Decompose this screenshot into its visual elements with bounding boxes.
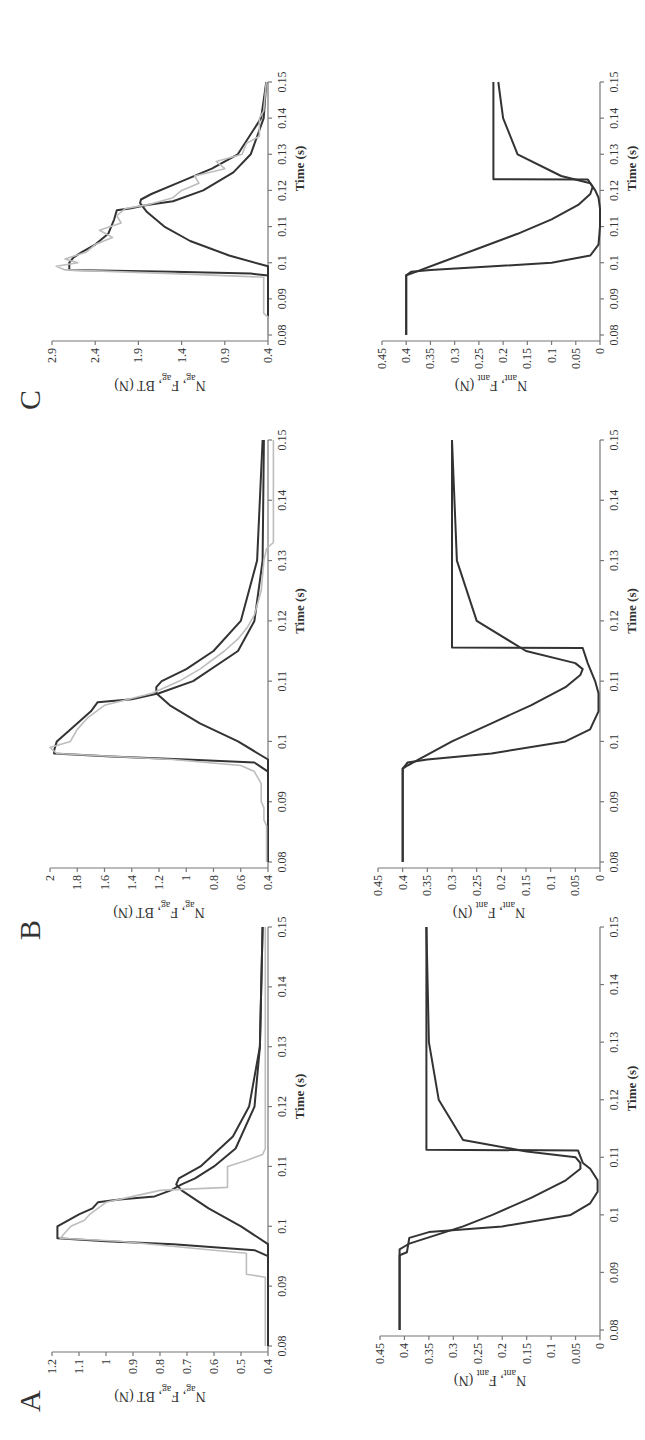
y-tick-label: 0.4 <box>261 875 275 890</box>
y-tick-label: 0.25 <box>470 875 484 896</box>
x-tick-label: 0.15 <box>275 917 289 938</box>
x-tick-label: 0.14 <box>607 108 621 129</box>
y-tick-label: 0.1 <box>544 875 558 890</box>
y-axis-title: Nag, Fag, BT (N) <box>113 901 205 921</box>
y-tick-label: 0.8 <box>207 875 221 890</box>
y-tick-label: 0.3 <box>446 1343 460 1358</box>
x-tick-label: 0.13 <box>275 144 289 165</box>
y-tick-label: 0.3 <box>445 875 459 890</box>
y-tick-label: 0.05 <box>569 348 583 369</box>
y-tick-label: 0.35 <box>422 1343 436 1364</box>
model-curve <box>69 82 268 335</box>
y-tick-label: 0.6 <box>207 1359 221 1374</box>
y-tick-label: 0.2 <box>494 875 508 890</box>
x-tick-label: 0.15 <box>275 430 289 451</box>
x-tick-label: 0.14 <box>607 974 621 995</box>
x-tick-label: 0.15 <box>607 430 621 451</box>
model-curve <box>406 82 593 335</box>
y-tick-label: 0.2 <box>495 1343 509 1358</box>
panel-label-c: C <box>13 390 46 410</box>
x-tick-label: 0.11 <box>275 216 289 237</box>
y-tick-label: 1.8 <box>70 875 84 890</box>
model-curve <box>54 440 268 862</box>
x-tick-label: 0.1 <box>275 734 289 749</box>
chart-b-bottom: 0.080.090.10.110.120.130.140.1500.050.10… <box>371 430 639 921</box>
y-tick-label: 2.4 <box>88 348 102 363</box>
y-tick-label: 0.15 <box>520 1343 534 1364</box>
x-tick-label: 0.13 <box>607 1032 621 1053</box>
x-tick-label: 0.14 <box>275 976 289 997</box>
figure-canvas: ABC0.080.090.10.110.120.130.140.150.40.5… <box>0 0 645 1440</box>
y-axis-title: Nant, Fant (N) <box>453 901 526 921</box>
x-tick-label: 0.12 <box>607 1089 621 1110</box>
y-tick-label: 0.1 <box>545 348 559 363</box>
model-curve <box>176 927 268 1346</box>
x-tick-label: 0.13 <box>607 550 621 571</box>
x-tick-label: 0.14 <box>275 108 289 129</box>
x-tick-label: 0.08 <box>607 1320 621 1341</box>
y-tick-label: 0.8 <box>153 1359 167 1374</box>
y-tick-label: 0.35 <box>420 875 434 896</box>
x-tick-label: 0.11 <box>607 1147 621 1168</box>
x-tick-label: 0.08 <box>275 1336 289 1357</box>
x-tick-label: 0.14 <box>607 490 621 511</box>
y-tick-label: 0.05 <box>568 875 582 896</box>
x-axis-title: Time (s) <box>292 146 307 192</box>
y-tick-label: 0.15 <box>519 875 533 896</box>
x-tick-label: 0.09 <box>275 1276 289 1297</box>
x-axis-title: Time (s) <box>624 588 639 634</box>
y-tick-label: 1.9 <box>131 348 145 363</box>
x-tick-label: 0.14 <box>275 490 289 511</box>
x-tick-label: 0.12 <box>275 180 289 201</box>
x-tick-label: 0.11 <box>275 671 289 692</box>
y-tick-label: 0.4 <box>261 1359 275 1374</box>
x-tick-label: 0.1 <box>275 255 289 270</box>
x-tick-label: 0.11 <box>607 671 621 692</box>
experimental-trace <box>50 440 273 862</box>
y-tick-label: 0.05 <box>569 1343 583 1364</box>
y-tick-label: 0.1 <box>544 1343 558 1358</box>
x-tick-label: 0.12 <box>275 1096 289 1117</box>
y-tick-label: 0.45 <box>375 348 389 369</box>
y-tick-label: 0.4 <box>261 348 275 363</box>
x-tick-label: 0.08 <box>607 852 621 873</box>
y-tick-label: 0.45 <box>371 875 385 896</box>
x-tick-label: 0.08 <box>275 325 289 346</box>
model-curve <box>400 927 598 1330</box>
chart-c-top: 0.080.090.10.110.120.130.140.150.40.91.4… <box>45 72 307 394</box>
x-tick-label: 0.13 <box>275 1036 289 1057</box>
x-tick-label: 0.15 <box>607 72 621 93</box>
figure-stage: ABC0.080.090.10.110.120.130.140.150.40.5… <box>0 0 645 1440</box>
y-tick-label: 1 <box>99 1359 113 1365</box>
y-tick-label: 0.3 <box>448 348 462 363</box>
y-tick-label: 1.1 <box>72 1359 86 1374</box>
x-axis-title: Time (s) <box>624 146 639 192</box>
y-tick-label: 0.2 <box>496 348 510 363</box>
y-tick-label: 0.25 <box>472 348 486 369</box>
y-tick-label: 0.5 <box>234 1359 248 1374</box>
y-axis-title: Nag, Fag, BT (N) <box>114 374 206 394</box>
y-tick-label: 2.9 <box>45 348 59 363</box>
panel-label-b: B <box>13 920 46 940</box>
y-tick-label: 0.4 <box>396 875 410 890</box>
y-tick-label: 0.25 <box>471 1343 485 1364</box>
experimental-trace <box>56 82 268 335</box>
x-tick-label: 0.13 <box>275 550 289 571</box>
x-tick-label: 0.09 <box>607 791 621 812</box>
y-tick-label: 0 <box>593 1343 607 1349</box>
model-curve <box>57 927 268 1346</box>
y-tick-label: 1.4 <box>125 875 139 890</box>
y-tick-label: 1.6 <box>98 875 112 890</box>
x-tick-label: 0.09 <box>275 288 289 309</box>
y-tick-label: 0.35 <box>423 348 437 369</box>
y-axis-title: Nant, Fant (N) <box>454 1369 527 1389</box>
y-tick-label: 0.45 <box>373 1343 387 1364</box>
x-tick-label: 0.11 <box>607 216 621 237</box>
experimental-trace <box>60 927 265 1346</box>
x-tick-label: 0.08 <box>275 852 289 873</box>
chart-c-bottom: 0.080.090.10.110.120.130.140.1500.050.10… <box>375 72 639 394</box>
x-tick-label: 0.13 <box>607 144 621 165</box>
y-tick-label: 0.4 <box>397 1343 411 1358</box>
y-tick-label: 1.2 <box>45 1359 59 1374</box>
y-tick-label: 2 <box>43 875 57 881</box>
